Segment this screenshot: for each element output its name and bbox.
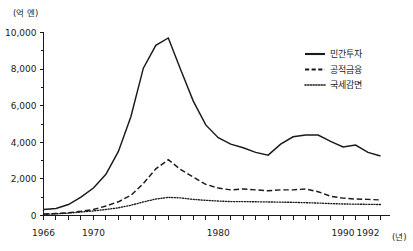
x-axis-unit-label: (년) (392, 232, 407, 242)
x-tick-label: 1970 (82, 228, 105, 238)
y-axis-tick-labels: 02,0004,0006,0008,00010,000 (5, 28, 37, 221)
line-chart: (억 엔) 02,0004,0006,0008,00010,000 196619… (0, 0, 413, 251)
x-axis-ticks (44, 216, 381, 220)
y-tick-label: 6,000 (11, 101, 37, 111)
y-tick-label: 4,000 (11, 138, 37, 148)
x-tick-label: 1992 (357, 228, 380, 238)
chart-container: (억 엔) 02,0004,0006,0008,00010,000 196619… (0, 0, 413, 251)
legend-label[interactable]: 국세감면 (330, 79, 362, 90)
y-tick-label: 0 (31, 211, 37, 221)
chart-legend: 민간투자공적금융국세감면 (305, 49, 363, 90)
legend-label[interactable]: 민간투자 (330, 49, 363, 59)
y-tick-label: 10,000 (5, 28, 37, 38)
y-tick-label: 8,000 (11, 64, 37, 74)
series-line-solid (44, 38, 381, 209)
x-tick-label: 1980 (207, 228, 230, 238)
x-axis-tick-labels: 19661970198019901992 (32, 228, 379, 238)
series-line-dotted (44, 197, 381, 214)
y-axis-unit-label: (억 엔) (13, 8, 38, 18)
y-axis-ticks (40, 33, 44, 216)
x-tick-label: 1966 (32, 228, 55, 238)
y-axis-unit-label-group: (억 엔) (13, 8, 38, 18)
y-tick-label: 2,000 (11, 174, 37, 184)
x-tick-label: 1990 (332, 228, 355, 238)
legend-label[interactable]: 공적금융 (330, 64, 362, 75)
